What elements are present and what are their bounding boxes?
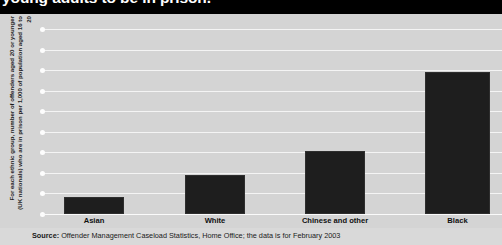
gridline [44,29,502,30]
gridline-dot [40,48,45,53]
source-label: Source: [32,231,59,240]
bar-asian [64,197,124,214]
chart-figure: young adults to be in prison. For each e… [0,0,502,245]
y-axis-label: For each ethnic group, number of offende… [8,16,33,212]
gridline-dot [40,27,45,32]
source-text: Offender Management Caseload Statistics,… [59,231,340,240]
category-label: Chinese and other [275,216,395,225]
y-axis-label-wrap: For each ethnic group, number of offende… [0,14,40,214]
category-label: White [155,216,275,225]
axis-baseline [40,214,502,215]
source-line: Source: Offender Management Caseload Sta… [32,231,340,240]
category-label: Black [395,216,502,225]
gridline-dot [40,171,45,176]
category-label: Asian [34,216,154,225]
gridline-dot [40,130,45,135]
page-title: young adults to be in prison. [2,0,211,7]
gridline-dot [40,89,45,94]
bar-white [185,175,245,214]
source-footer: Source: Offender Management Caseload Sta… [0,228,502,245]
bar-chinese-and-other [305,151,365,214]
gridline [44,50,502,51]
title-band: young adults to be in prison. [0,0,502,14]
bar-black [425,72,490,214]
